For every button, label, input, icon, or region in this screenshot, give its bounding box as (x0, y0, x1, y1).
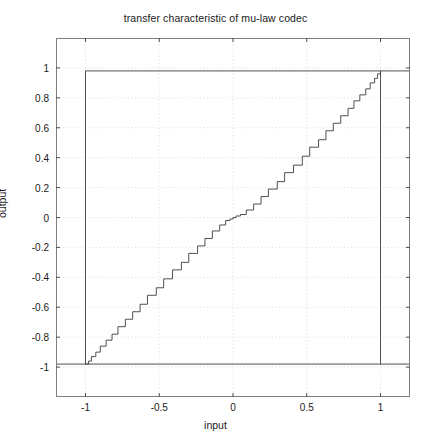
x-tick-label: -0.5 (151, 402, 168, 413)
y-axis-label: output (0, 189, 8, 218)
y-tick-label: -0.4 (32, 272, 49, 283)
y-tick-label: -0.6 (32, 302, 49, 313)
x-tick-label: 0.5 (300, 402, 314, 413)
y-tick-label: 0.2 (35, 182, 49, 193)
data-series-staircase (86, 71, 381, 364)
plot-svg (56, 38, 410, 397)
y-tick-label: 1 (43, 62, 49, 73)
y-tick-label: 0.8 (35, 92, 49, 103)
chart-title: transfer characteristic of mu-law codec (0, 12, 431, 24)
y-tick-label: -1 (40, 362, 49, 373)
y-tick-label: -0.8 (32, 332, 49, 343)
y-tick-label: -0.2 (32, 242, 49, 253)
plot-axes-area: -1-0.8-0.6-0.4-0.200.20.40.60.81-1-0.500… (56, 38, 410, 397)
y-tick-label: 0.6 (35, 122, 49, 133)
x-tick-label: -1 (81, 402, 90, 413)
y-tick-label: 0 (43, 212, 49, 223)
x-tick-label: 0 (230, 402, 236, 413)
x-tick-label: 1 (378, 402, 384, 413)
x-axis-label: input (0, 419, 431, 431)
y-tick-label: 0.4 (35, 152, 49, 163)
figure-canvas: transfer characteristic of mu-law codec … (0, 0, 431, 441)
